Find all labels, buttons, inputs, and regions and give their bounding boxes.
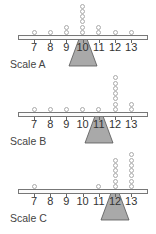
weight-stack bbox=[63, 24, 69, 35]
scale-c: 78910111213Scale C bbox=[0, 154, 156, 232]
weight-circle bbox=[113, 158, 118, 163]
weight-stack bbox=[112, 75, 118, 112]
weight-circle bbox=[80, 19, 85, 24]
weight-circle bbox=[80, 9, 85, 14]
tick-label: 8 bbox=[42, 195, 58, 207]
tick-label: 11 bbox=[91, 41, 107, 53]
weight-circle bbox=[129, 173, 134, 178]
tick-label: 11 bbox=[91, 195, 107, 207]
weight-circle bbox=[129, 179, 134, 184]
tick-label: 13 bbox=[123, 195, 139, 207]
scale-label: Scale C bbox=[10, 212, 47, 224]
tick-label: 7 bbox=[26, 195, 42, 207]
weight-circle bbox=[129, 102, 134, 107]
weight-circle bbox=[129, 163, 134, 168]
tick-label: 7 bbox=[26, 41, 42, 53]
scale-a: 78910111213Scale A bbox=[0, 0, 156, 78]
weight-circle bbox=[113, 102, 118, 107]
tick-label: 9 bbox=[58, 195, 74, 207]
weight-circle bbox=[129, 168, 134, 173]
tick-label: 9 bbox=[58, 118, 74, 130]
tick-label: 10 bbox=[75, 118, 91, 130]
weight-circle bbox=[113, 75, 118, 80]
weight-circle bbox=[113, 96, 118, 101]
tick-label: 11 bbox=[91, 118, 107, 130]
weight-stack bbox=[80, 3, 86, 35]
tick-label: 10 bbox=[75, 195, 91, 207]
tick-label: 12 bbox=[107, 41, 123, 53]
tick-label: 12 bbox=[107, 118, 123, 130]
tick-label: 10 bbox=[75, 41, 91, 53]
tick-label: 8 bbox=[42, 41, 58, 53]
weight-circle bbox=[113, 91, 118, 96]
weight-circle bbox=[80, 4, 85, 9]
weight-circle bbox=[113, 81, 118, 86]
tick-label: 9 bbox=[58, 41, 74, 53]
weight-circle bbox=[129, 152, 134, 157]
weight-stack bbox=[128, 152, 134, 189]
tick-label: 7 bbox=[26, 118, 42, 130]
weight-circle bbox=[64, 25, 69, 30]
weight-circle bbox=[80, 14, 85, 19]
tick-label: 13 bbox=[123, 41, 139, 53]
tick-label: 13 bbox=[123, 118, 139, 130]
weight-circle bbox=[113, 86, 118, 91]
scale-label: Scale B bbox=[10, 135, 46, 147]
weight-circle bbox=[113, 168, 118, 173]
weight-circle bbox=[113, 163, 118, 168]
weight-circle bbox=[96, 25, 101, 30]
weight-stack bbox=[112, 157, 118, 189]
weight-circle bbox=[80, 25, 85, 30]
weight-circle bbox=[113, 173, 118, 178]
weight-circle bbox=[113, 179, 118, 184]
scale-b: 78910111213Scale B bbox=[0, 77, 156, 155]
weight-stack bbox=[96, 24, 102, 35]
weight-circle bbox=[129, 158, 134, 163]
tick-label: 12 bbox=[107, 195, 123, 207]
scale-label: Scale A bbox=[10, 58, 46, 70]
tick-label: 8 bbox=[42, 118, 58, 130]
weight-stack bbox=[128, 101, 134, 112]
